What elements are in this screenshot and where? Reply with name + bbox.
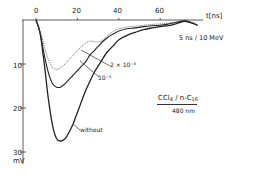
system-annotation-line2: 480 nm — [172, 108, 195, 114]
y-axis-unit-label: mV — [13, 158, 25, 165]
curves — [36, 20, 198, 141]
label-leader-lines — [73, 50, 110, 130]
leader-2e-3 — [81, 50, 110, 66]
system-annotation-divider — [157, 104, 197, 105]
curve-label-without: without — [80, 127, 103, 133]
curve-without — [36, 20, 198, 141]
curve-10-3 — [36, 20, 198, 88]
system-formula: CCl4 / n-C16 — [158, 94, 198, 102]
system-annotation-line1: CCl4 / n-C16 — [158, 95, 198, 102]
chart-svg — [0, 0, 272, 183]
x-axis-label: t[ns] — [206, 13, 222, 20]
x-tick-0: 0 — [34, 8, 38, 15]
x-tick-20: 20 — [72, 8, 81, 15]
scale-annotation: 5 ns / 10 MeV — [179, 35, 223, 42]
y-tick-10: 10 — [13, 63, 22, 70]
y-tick-30: 30 — [13, 150, 22, 157]
curve-label-2e-3: 2 × 10⁻³ — [110, 62, 136, 68]
curve-label-1e-3: 10⁻³ — [98, 75, 111, 81]
y-tick-20: 20 — [13, 106, 22, 113]
leader-without — [73, 124, 80, 130]
x-tick-60: 60 — [155, 8, 164, 15]
x-tick-40: 40 — [113, 8, 122, 15]
